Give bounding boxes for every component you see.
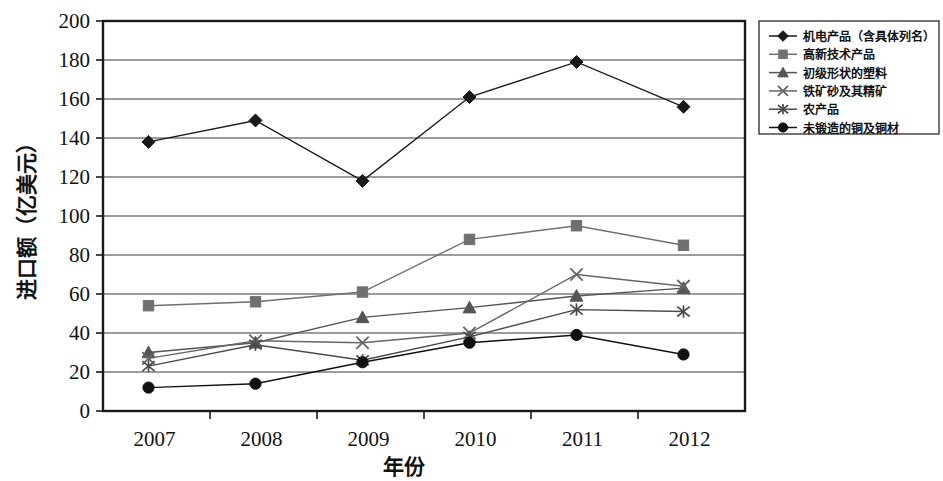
- data-point-circle: [250, 378, 261, 389]
- data-point-circle: [778, 123, 787, 132]
- legend-label: 未锻造的铜及铜材: [802, 121, 899, 136]
- y-axis-tick-label: 0: [80, 399, 91, 423]
- data-point-diamond: [463, 91, 476, 104]
- data-point-diamond: [249, 114, 262, 127]
- x-axis-tick-label: 2007: [134, 427, 176, 451]
- data-point-square: [464, 234, 474, 244]
- data-point-circle: [357, 357, 368, 368]
- y-axis-title: 进口额（亿美元）: [15, 132, 39, 300]
- x-axis-tick-label: 2008: [241, 427, 283, 451]
- y-axis-tick-label: 120: [59, 165, 91, 189]
- series-3: [142, 268, 689, 364]
- data-point-circle: [571, 329, 582, 340]
- series-line: [149, 62, 684, 181]
- data-point-square: [678, 240, 688, 250]
- series-line: [149, 275, 684, 359]
- data-point-square: [571, 221, 581, 231]
- y-axis-tick-label: 160: [59, 87, 91, 111]
- x-axis-tick-label: 2009: [348, 427, 390, 451]
- x-axis-tick-label: 2010: [455, 427, 497, 451]
- data-point-circle: [143, 382, 154, 393]
- data-point-square: [250, 297, 260, 307]
- x-axis-title: 年份: [383, 455, 426, 479]
- data-point-circle: [464, 337, 475, 348]
- data-point-square: [143, 301, 153, 311]
- data-point-diamond: [142, 135, 155, 148]
- x-axis-tick-label: 2012: [669, 427, 711, 451]
- y-axis-tick-label: 20: [69, 360, 90, 384]
- x-axis-tick-label: 2011: [562, 427, 603, 451]
- data-point-diamond: [356, 174, 369, 187]
- series-5: [143, 329, 689, 393]
- data-point-square: [779, 50, 788, 59]
- series-line: [149, 288, 684, 352]
- data-point-diamond: [570, 55, 583, 68]
- y-axis-tick-label: 180: [59, 48, 91, 72]
- data-point-star: [142, 360, 154, 372]
- y-axis-tick-label: 100: [59, 204, 91, 228]
- y-axis-tick-label: 80: [69, 243, 90, 267]
- legend-label: 高新技术产品: [803, 47, 875, 62]
- y-axis-tick-label: 140: [59, 126, 91, 150]
- series-line: [149, 335, 684, 388]
- y-axis-tick-label: 40: [69, 321, 90, 345]
- data-point-diamond: [677, 100, 690, 113]
- series-1: [143, 221, 688, 311]
- chart-canvas: 0204060801001201401601802002007200820092…: [0, 0, 943, 481]
- y-axis-tick-label: 200: [59, 9, 91, 33]
- legend-label: 初级形状的塑料: [803, 66, 887, 81]
- line-chart: 0204060801001201401601802002007200820092…: [0, 0, 943, 481]
- legend-label: 农产品: [802, 102, 839, 117]
- data-point-square: [357, 287, 367, 297]
- data-point-circle: [678, 349, 689, 360]
- y-axis-tick-label: 60: [69, 282, 90, 306]
- legend-label: 铁矿砂及其精矿: [803, 84, 887, 99]
- legend-label: 机电产品（含具体列名）: [803, 29, 935, 44]
- series-0: [142, 55, 690, 187]
